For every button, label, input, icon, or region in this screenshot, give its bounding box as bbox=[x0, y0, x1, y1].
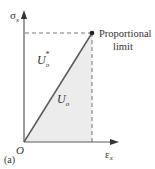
x-axis-label: εx bbox=[105, 148, 114, 162]
upper-region-superscript: * bbox=[45, 50, 49, 59]
y-axis-arrow-icon bbox=[21, 10, 27, 19]
y-axis-subscript: x bbox=[15, 16, 20, 24]
proportional-limit-label-line2: limit bbox=[113, 41, 133, 52]
strain-energy-diagram: σx εx O Proportional limit Uo* Uo (a) bbox=[0, 0, 155, 169]
origin-label: O bbox=[16, 144, 24, 156]
lower-region-subscript: o bbox=[66, 100, 70, 108]
panel-label: (a) bbox=[4, 154, 15, 166]
proportional-limit-point bbox=[90, 31, 95, 36]
x-axis-arrow-icon bbox=[110, 139, 119, 145]
proportional-limit-label-line1: Proportional bbox=[99, 28, 152, 39]
upper-region-subscript: o bbox=[46, 61, 50, 69]
y-axis-label: σx bbox=[10, 9, 20, 24]
x-axis-subscript: x bbox=[109, 154, 114, 162]
complementary-energy-label: Uo* bbox=[37, 50, 50, 69]
